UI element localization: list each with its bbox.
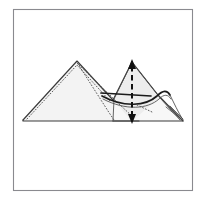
- origami-diagram-figure: Origami folding step diagram: [0, 0, 206, 208]
- origami-diagram-canvas: [0, 0, 206, 208]
